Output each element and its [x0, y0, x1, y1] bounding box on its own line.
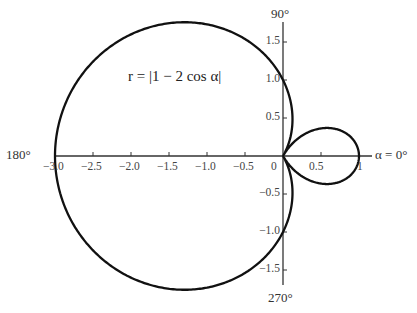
x-tick-label: 0.5 — [309, 160, 323, 172]
y-tick-label: −1.5 — [259, 262, 280, 274]
x-tick-label: −0.5 — [233, 160, 254, 172]
angle-label-90: 90° — [271, 6, 289, 22]
y-tick-label: 0.5 — [266, 110, 280, 122]
angle-label-270: 270° — [268, 290, 293, 306]
y-tick-label: 1.0 — [266, 72, 280, 84]
angle-label-0: α = 0° — [375, 147, 407, 163]
x-tick-label: −1.0 — [195, 160, 216, 172]
angle-label-180: 180° — [6, 147, 31, 163]
equation-label: r = |1 − 2 cos α| — [128, 68, 221, 85]
x-tick-label: 1 — [357, 160, 363, 172]
y-tick-label: −0.5 — [259, 186, 280, 198]
y-tick-label: −1.0 — [259, 224, 280, 236]
y-tick-label: 1.5 — [266, 34, 280, 46]
x-tick-label: −2.5 — [81, 160, 102, 172]
x-tick-label: −3.0 — [43, 160, 64, 172]
x-tick-label: −2.0 — [119, 160, 140, 172]
x-tick-label: 0 — [271, 160, 277, 172]
polar-plot — [0, 0, 417, 313]
x-tick-label: −1.5 — [157, 160, 178, 172]
